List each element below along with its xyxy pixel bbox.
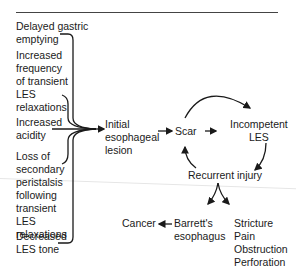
node-incompetent-les: Incompetent LES (230, 118, 288, 144)
cause-increased-acidity: Increased acidity (16, 116, 62, 142)
node-barretts-esophagus: Barrett's esophagus (174, 217, 225, 243)
cause-loss-secondary-peristalsis: Loss of secondary peristalsis following … (16, 150, 67, 241)
arc-les-to-injury (255, 143, 266, 170)
arc-scar-to-les (185, 96, 250, 118)
arrow-injury-complications (218, 183, 229, 204)
node-recurrent-injury: Recurrent injury (188, 169, 262, 182)
node-complications: Stricture Pain Obstruction Perforation (234, 217, 288, 269)
node-scar: Scar (175, 125, 197, 138)
cause-delayed-gastric-emptying: Delayed gastric emptying (16, 20, 88, 46)
arrow-injury-barretts (208, 183, 218, 204)
arc-injury-to-scar (185, 147, 196, 168)
node-cancer: Cancer (122, 217, 156, 230)
cause-decreased-les-tone: Decreased LES tone (16, 230, 67, 256)
arrow-peristalsis (62, 129, 96, 164)
cause-transient-les-relaxations: Increased frequency of transient LES rel… (16, 49, 68, 114)
node-initial-lesion: Initial esophageal lesion (105, 118, 159, 157)
